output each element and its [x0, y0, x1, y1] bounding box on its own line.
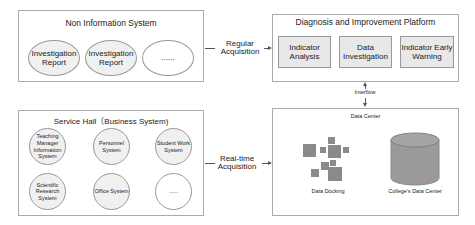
realtime-acquisition-label: Real-time Acquisition [212, 155, 262, 172]
panel-title: Service Hall（Business System) [19, 115, 203, 126]
diagnosis-platform-panel: Diagnosis and Improvement Platform Indic… [272, 14, 459, 82]
indicator-analysis-node: Indicator Analysis [278, 36, 331, 68]
scientific-research-node: Scientific Research System [29, 173, 66, 210]
interflow-label: Interflow [345, 90, 385, 96]
panel-title: Non Information System [19, 18, 203, 28]
investigation-report-node: Investigation Report [28, 40, 80, 76]
non-information-system-panel: Non Information System Investigation Rep… [18, 10, 204, 82]
teaching-manager-node: Teaching Manager Information System [29, 128, 66, 165]
arrow-right-icon [268, 161, 272, 165]
student-work-node: Student Work System [155, 128, 192, 165]
service-hall-panel: Service Hall（Business System) Teaching M… [18, 110, 204, 216]
data-docking-icon [303, 137, 353, 181]
personnel-system-node: Personnel System [93, 128, 130, 165]
panel-title: Data Center [273, 113, 458, 119]
arrow-down-icon [363, 103, 367, 107]
office-system-node: Office System [93, 173, 130, 210]
more-node: ...... [142, 40, 194, 76]
regular-acquisition-label: Regular Acquisition [215, 40, 265, 57]
more-node: ...... [155, 173, 192, 210]
database-cylinder-icon [389, 132, 441, 187]
data-investigation-node: Data Investigation [339, 36, 392, 68]
investigation-report-node: Investigation Report [85, 40, 137, 76]
indicator-early-warning-node: Indicator Early Warning [400, 36, 454, 68]
panel-title: Diagnosis and Improvement Platform [273, 17, 458, 27]
data-center-panel: Data Center Data Docking College's Data … [272, 108, 459, 216]
arrow-right-icon [268, 46, 272, 50]
data-docking-label: Data Docking [293, 189, 363, 195]
regular-connector-left [205, 48, 215, 49]
college-data-center-label: College's Data Center [373, 189, 457, 195]
